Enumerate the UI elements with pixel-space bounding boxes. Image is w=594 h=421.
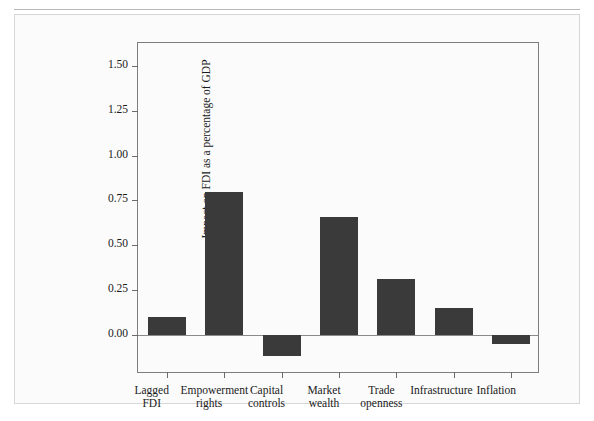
x-axis-label: Tradeopenness [353, 384, 410, 410]
x-axis-label: Infrastructure [410, 384, 467, 397]
y-tick-label: 1.50 [108, 58, 128, 70]
figure-container: Impact on FDI as a percentage of GDP 0.0… [14, 14, 580, 404]
x-axis-label-line: Infrastructure [410, 384, 467, 397]
x-axis-label-line: Market [295, 384, 352, 397]
x-axis-label-line: Lagged [123, 384, 180, 397]
x-axis-label-line: controls [238, 397, 295, 410]
y-tick-label: 0.25 [108, 282, 128, 294]
x-tick-mark [167, 372, 168, 378]
y-tick-label: 0.75 [108, 192, 128, 204]
bar [377, 279, 415, 334]
bar [320, 217, 358, 335]
bar [205, 192, 243, 335]
header-divider [14, 9, 580, 10]
x-tick-mark [396, 372, 397, 378]
y-tick-label: 0.50 [108, 237, 128, 249]
x-tick-mark [224, 372, 225, 378]
bar [263, 335, 301, 356]
x-axis-label: Empowermentrights [180, 384, 237, 410]
x-tick-mark [454, 372, 455, 378]
x-tick-mark [339, 372, 340, 378]
running-header [118, 0, 518, 6]
x-axis-label: Capitalcontrols [238, 384, 295, 410]
y-tick-label: 1.25 [108, 103, 128, 115]
y-tick-label: 1.00 [108, 148, 128, 160]
y-tick-label: 0.00 [108, 327, 128, 339]
bar [148, 317, 186, 335]
figure-page: Impact on FDI as a percentage of GDP 0.0… [0, 0, 594, 421]
x-axis-label-line: wealth [295, 397, 352, 410]
x-axis-label-line: FDI [123, 397, 180, 410]
x-axis-label-line: Empowerment [180, 384, 237, 397]
x-axis-label-line: rights [180, 397, 237, 410]
x-axis-label: Inflation [468, 384, 525, 397]
x-axis-label: Marketwealth [295, 384, 352, 410]
x-axis-label-line: Inflation [468, 384, 525, 397]
bar-series [138, 43, 538, 372]
x-tick-mark [511, 372, 512, 378]
bar [435, 308, 473, 335]
x-axis-label: LaggedFDI [123, 384, 180, 410]
x-axis-label-line: Capital [238, 384, 295, 397]
x-tick-mark [282, 372, 283, 378]
plot-area: Impact on FDI as a percentage of GDP 0.0… [137, 42, 539, 373]
x-axis-label-line: openness [353, 397, 410, 410]
x-axis-label-line: Trade [353, 384, 410, 397]
bar [492, 335, 530, 344]
